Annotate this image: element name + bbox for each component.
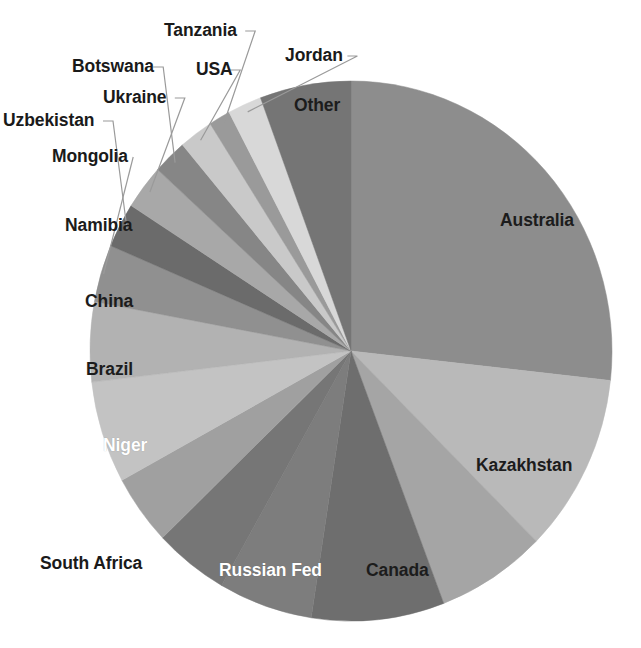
pie-label-brazil: Brazil — [86, 361, 133, 379]
pie-label-jordan: Jordan — [285, 47, 343, 65]
pie-label-kazakhstan: Kazakhstan — [476, 457, 572, 475]
pie-slice-australia[interactable] — [351, 81, 612, 381]
pie-label-tanzania: Tanzania — [164, 22, 237, 40]
pie-label-canada: Canada — [366, 562, 429, 580]
pie-slices — [90, 81, 612, 621]
pie-label-other: Other — [294, 97, 340, 115]
pie-label-russian-fed: Russian Fed — [219, 562, 322, 580]
pie-label-niger: Niger — [103, 437, 147, 455]
pie-label-botswana: Botswana — [72, 58, 154, 76]
pie-label-namibia: Namibia — [65, 217, 132, 235]
pie-label-uzbekistan: Uzbekistan — [3, 112, 94, 130]
pie-label-south-africa: South Africa — [40, 555, 142, 573]
leader-line-botswana — [153, 67, 175, 163]
pie-label-australia: Australia — [500, 212, 574, 230]
pie-label-mongolia: Mongolia — [52, 148, 128, 166]
pie-label-china: China — [85, 293, 133, 311]
pie-label-ukraine: Ukraine — [103, 89, 167, 107]
leader-line-uzbekistan — [103, 121, 127, 229]
pie-chart-figure: AustraliaKazakhstanCanadaRussian FedNige… — [0, 0, 641, 648]
pie-label-usa: USA — [196, 61, 233, 79]
